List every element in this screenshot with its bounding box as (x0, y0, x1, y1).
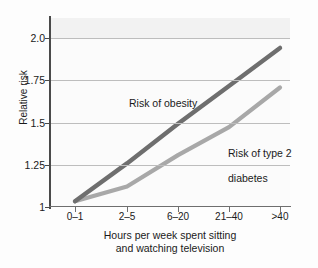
y-tick-label-1.5: 1.5 (30, 118, 45, 129)
y-tick-label-2.0: 2.0 (30, 33, 45, 44)
y-axis-line (49, 16, 51, 209)
x-axis-title-line1: Hours per week spent sitting (104, 229, 236, 241)
x-tick-label-6-20: 6–20 (167, 212, 189, 222)
y-tick-label-1: 1 (39, 202, 45, 213)
y-axis-title: Relative risk (18, 53, 29, 143)
x-tick-label-over40: >40 (272, 212, 289, 222)
y-tick-1.5 (45, 123, 50, 124)
series-label-diabetes-line1: Risk of type 2 (228, 147, 292, 159)
series-label-obesity: Risk of obesity (129, 97, 197, 110)
x-tick-label-21-40: 21–40 (215, 212, 243, 222)
y-tick-1.75 (45, 80, 50, 81)
y-tick-1.25 (45, 165, 50, 166)
series-label-diabetes: Risk of type 2 diabetes (228, 134, 292, 184)
x-tick-label-0-1: 0–1 (67, 212, 84, 222)
gridline-1.5 (50, 123, 290, 124)
x-tick-label-2-5: 2–5 (119, 212, 136, 222)
y-tick-1 (45, 207, 50, 208)
y-tick-label-1.25: 1.25 (25, 160, 45, 171)
gridline-1.75 (50, 80, 290, 81)
plot-top-shade-band (50, 18, 290, 38)
x-axis-title: Hours per week spent sitting and watchin… (50, 229, 290, 255)
gridline-2.0 (50, 38, 290, 39)
x-axis-title-line2: and watching television (116, 242, 225, 254)
y-tick-2.0 (45, 38, 50, 39)
x-axis-line (49, 206, 291, 207)
chart-figure: 2.0 1.75 1.5 1.25 1 0–1 2–5 6–20 21–40 >… (0, 0, 318, 268)
series-label-diabetes-line2: diabetes (228, 172, 268, 184)
